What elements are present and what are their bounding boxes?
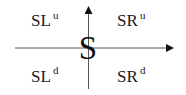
quadrant-diagram: S SL u SR u SL d SR d — [0, 0, 186, 95]
center-label: S — [79, 30, 97, 66]
quadrant-label-superscript: d — [140, 64, 146, 76]
quadrant-label-base: SL — [31, 11, 51, 30]
quadrant-bottom-right: SR d — [117, 64, 146, 86]
quadrant-label-superscript: u — [53, 9, 59, 21]
quadrant-label-base: SR — [117, 11, 138, 30]
quadrant-label-superscript: u — [140, 9, 146, 21]
quadrant-label-base: SR — [117, 67, 138, 86]
quadrant-label-superscript: d — [53, 64, 59, 76]
quadrant-label-base: SL — [31, 67, 51, 86]
quadrant-top-left: SL u — [31, 9, 59, 30]
quadrant-top-right: SR u — [117, 9, 146, 30]
quadrant-bottom-left: SL d — [31, 64, 59, 86]
